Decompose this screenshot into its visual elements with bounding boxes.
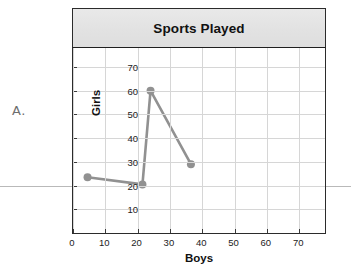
gridline-horizontal bbox=[73, 209, 325, 210]
x-axis-tick-label: 60 bbox=[261, 237, 272, 248]
gridline-horizontal bbox=[73, 138, 325, 139]
y-axis-tick-label: 20 bbox=[127, 180, 138, 191]
x-axis-tick bbox=[299, 229, 300, 233]
gridline-vertical bbox=[267, 48, 268, 233]
y-axis-tick-label: 50 bbox=[127, 109, 138, 120]
gridline-horizontal bbox=[73, 114, 325, 115]
y-axis-tick-label: 30 bbox=[127, 156, 138, 167]
item-letter: A. bbox=[12, 103, 26, 118]
gridline-vertical bbox=[73, 48, 74, 233]
data-point-marker bbox=[138, 180, 146, 188]
gridline-horizontal bbox=[73, 162, 325, 163]
x-axis-title: Boys bbox=[72, 252, 326, 264]
x-axis-tick-label: 10 bbox=[99, 237, 110, 248]
y-axis-tick-label: 60 bbox=[127, 85, 138, 96]
gridline-vertical bbox=[235, 48, 236, 233]
chart-title-band: Sports Played bbox=[72, 8, 326, 48]
y-axis-tick-label: 40 bbox=[127, 133, 138, 144]
x-axis-tick-label: 50 bbox=[228, 237, 239, 248]
gridline-vertical bbox=[170, 48, 171, 233]
gridline-horizontal bbox=[73, 186, 325, 187]
x-axis-tick-labels: 010203040506070 bbox=[72, 237, 326, 251]
gridline-vertical bbox=[202, 48, 203, 233]
data-point-marker bbox=[84, 173, 92, 181]
x-axis-tick bbox=[170, 229, 171, 233]
y-axis-tick-label: 10 bbox=[127, 204, 138, 215]
x-axis-tick bbox=[105, 229, 106, 233]
gridline-horizontal bbox=[73, 67, 325, 68]
gridline-vertical bbox=[299, 48, 300, 233]
x-axis-tick bbox=[235, 229, 236, 233]
gridline-horizontal bbox=[73, 91, 325, 92]
x-axis-tick bbox=[202, 229, 203, 233]
chart-figure: Sports Played 10203040506070 01020304050… bbox=[72, 8, 326, 234]
x-axis-tick-label: 40 bbox=[196, 237, 207, 248]
plot-area bbox=[72, 48, 326, 234]
x-axis-tick-label: 0 bbox=[69, 237, 74, 248]
y-axis-title: Girls bbox=[90, 90, 102, 116]
chart-title: Sports Played bbox=[153, 21, 244, 36]
x-axis-tick bbox=[267, 229, 268, 233]
x-axis-tick-label: 30 bbox=[164, 237, 175, 248]
series-layer bbox=[73, 48, 325, 233]
x-axis-tick-label: 20 bbox=[131, 237, 142, 248]
x-axis-tick bbox=[73, 229, 74, 233]
gridline-vertical bbox=[105, 48, 106, 233]
x-axis-tick-label: 70 bbox=[293, 237, 304, 248]
y-axis-tick-label: 70 bbox=[127, 62, 138, 73]
y-axis-tick-labels: 10203040506070 bbox=[116, 48, 138, 234]
